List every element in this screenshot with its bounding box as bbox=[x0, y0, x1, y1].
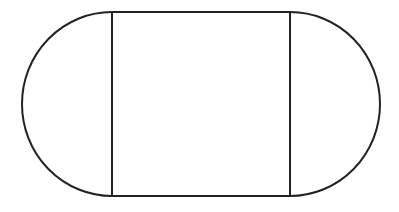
center-rectangle bbox=[112, 12, 290, 196]
right-semicircle bbox=[290, 12, 380, 196]
left-semicircle bbox=[22, 12, 112, 196]
stadium-diagram bbox=[0, 0, 399, 212]
